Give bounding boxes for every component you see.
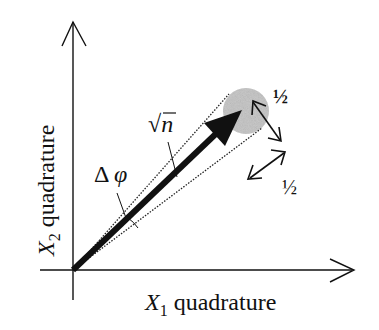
x-axis-label: X1quadrature (144, 289, 276, 319)
y-axis-arrowhead-icon (62, 22, 86, 46)
uncertainty-label-upper: ½ (273, 85, 288, 107)
y-axis-label: X2quadrature (33, 125, 63, 257)
amplitude-label: √n (148, 111, 173, 137)
phase-label: Δ φ (94, 161, 127, 187)
uncertainty-label-lower: ½ (282, 176, 297, 198)
uncertainty-arrow-lower (248, 150, 285, 179)
phasor-diagram: √n Δ φ ½ ½ X1quadrature X2quadrature (0, 0, 379, 330)
